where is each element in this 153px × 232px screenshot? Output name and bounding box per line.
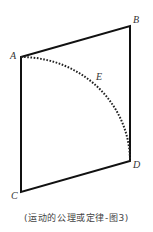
quadrilateral-abdc	[21, 26, 130, 192]
point-label-c: C	[11, 191, 18, 201]
point-label-a: A	[10, 51, 16, 61]
figure-caption: (运动的公理或定律-图3)	[0, 211, 153, 224]
parallelogram-diagram	[0, 0, 153, 232]
point-label-d: D	[133, 160, 140, 170]
point-label-b: B	[133, 15, 139, 25]
dotted-arc-aed	[21, 57, 130, 161]
point-label-e: E	[96, 72, 102, 82]
